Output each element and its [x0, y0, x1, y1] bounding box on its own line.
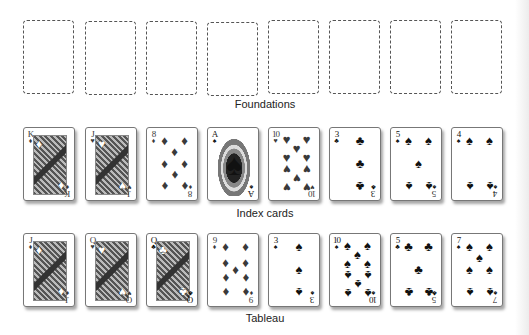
card-a-of-spades[interactable]: A♠♠A♠	[207, 127, 259, 201]
card-index-br: Q♥	[125, 289, 134, 304]
face-card-artwork: ♦♦	[33, 135, 67, 195]
clubs-icon: ♣	[402, 286, 416, 299]
card-rank: J	[125, 190, 134, 198]
card-rank: 9	[247, 296, 256, 304]
clubs-icon: ♣	[159, 243, 167, 257]
clubs-icon: ♣	[412, 263, 426, 276]
card-8-of-diamonds[interactable]: 8♦♦♦♦♦♦♦♦♦8♦	[146, 127, 198, 201]
card-index-br: 3♠	[308, 289, 317, 304]
diamonds-icon: ♦	[186, 183, 195, 190]
card-index-br: Q♣	[186, 289, 195, 304]
card-5-of-clubs[interactable]: 5♣♣♣♣♣♣5♣	[390, 233, 442, 307]
card-3-of-spades[interactable]: 3♠♠♠♠3♠	[268, 233, 320, 307]
card-index-br: 5♠	[430, 183, 439, 198]
card-index-br: 8♦	[186, 183, 195, 198]
spades-icon: ♠	[483, 134, 497, 147]
spades-icon: ♠	[341, 287, 355, 300]
spades-icon: ♠	[463, 263, 477, 276]
card-q-of-hearts[interactable]: Q♥♥♥Q♥	[85, 233, 137, 307]
hearts-icon: ♥	[125, 183, 134, 190]
card-index-br: 10♥	[308, 183, 317, 198]
clubs-icon: ♣	[402, 240, 416, 253]
card-j-of-hearts[interactable]: J♥♥♥J♥	[85, 127, 137, 201]
card-3-of-clubs[interactable]: 3♣♣♣♣3♣	[329, 127, 381, 201]
clubs-icon: ♣	[369, 183, 378, 190]
foundation-slot-7[interactable]	[390, 20, 441, 94]
card-4-of-spades[interactable]: 4♠♠♠♠♠4♠	[451, 127, 503, 201]
card-rank: 8	[186, 190, 195, 198]
spades-icon: ♠	[292, 240, 306, 253]
card-index-br: 9♦	[247, 289, 256, 304]
diamonds-icon: ♦	[219, 286, 233, 299]
card-q-of-clubs[interactable]: Q♣♣♣Q♣	[146, 233, 198, 307]
clubs-icon: ♣	[430, 289, 439, 296]
spades-icon: ♠	[463, 180, 477, 193]
clubs-icon: ♣	[353, 157, 367, 170]
card-index-br: A♠	[247, 183, 256, 198]
card-index-br: 10♠	[369, 289, 378, 304]
diamonds-icon: ♦	[219, 272, 233, 285]
card-rank: 5	[430, 296, 439, 304]
card-5-of-spades[interactable]: 5♠♠♠♠♠♠5♠	[390, 127, 442, 201]
card-index-tl: 3♠	[271, 236, 280, 251]
card-rank: Q	[186, 296, 195, 304]
spades-icon: ♠	[430, 183, 439, 190]
tableau-label: Tableau	[195, 312, 335, 324]
card-7-of-spades[interactable]: 7♠♠♠♠♠♠♠♠7♠	[451, 233, 503, 307]
card-10-of-spades[interactable]: 10♠♠♠♠♠♠♠♠♠♠♠10♠	[329, 233, 381, 307]
foundation-slot-2[interactable]	[85, 21, 136, 95]
spades-icon: ♠	[292, 263, 306, 276]
card-10-of-hearts[interactable]: 10♥♥♥♥♥♥♥♥♥♥♥10♥	[268, 127, 320, 201]
spades-icon: ♠	[483, 263, 497, 276]
hearts-icon: ♥	[98, 137, 105, 151]
face-card-artwork: ♥♥	[95, 241, 129, 301]
spades-icon: ♠	[491, 289, 500, 296]
index-cards-label: Index cards	[195, 207, 335, 219]
clubs-icon: ♣	[353, 134, 367, 147]
card-rank: 5	[430, 190, 439, 198]
spades-icon: ♠	[412, 157, 426, 170]
foundation-slot-6[interactable]	[329, 20, 380, 94]
diamonds-icon: ♦	[239, 272, 253, 285]
card-rank: 10	[308, 190, 317, 198]
diamonds-icon: ♦	[247, 289, 256, 296]
face-card-artwork: ♣♣	[156, 241, 190, 301]
foundation-slot-4[interactable]	[207, 22, 258, 96]
card-index-br: J♦	[63, 289, 72, 304]
foundation-slot-3[interactable]	[146, 21, 197, 95]
card-index-br: 7♠	[491, 289, 500, 304]
card-index-br: J♥	[125, 183, 134, 198]
card-rank: 3	[308, 296, 317, 304]
card-rank: A	[247, 190, 256, 198]
face-card-artwork: ♦♦	[33, 241, 67, 301]
spades-icon: ♠	[402, 134, 416, 147]
diamonds-icon: ♦	[158, 180, 172, 193]
card-j-of-diamonds[interactable]: J♦♦♦J♦	[23, 233, 75, 307]
hearts-icon: ♥	[280, 181, 294, 194]
spades-icon: ♠	[463, 286, 477, 299]
diamonds-icon: ♦	[239, 240, 253, 253]
card-rank: J	[63, 296, 72, 304]
card-rank: 7	[491, 296, 500, 304]
spades-icon: ♠	[402, 180, 416, 193]
spades-icon: ♠	[308, 289, 317, 296]
card-k-of-diamonds[interactable]: K♦♦♦K♦	[23, 127, 75, 201]
card-index-br: 5♣	[430, 289, 439, 304]
card-index-br: 3♣	[369, 183, 378, 198]
foundation-slot-1[interactable]	[23, 20, 74, 94]
spades-icon: ♠	[463, 134, 477, 147]
spades-icon: ♠	[292, 286, 306, 299]
spades-icon: ♠	[491, 183, 500, 190]
spades-icon: ♠	[422, 134, 436, 147]
diamonds-icon: ♦	[36, 137, 42, 151]
card-rank: 10	[369, 296, 378, 304]
card-rank: Q	[125, 296, 134, 304]
card-rank: K	[63, 190, 72, 198]
foundation-slot-8[interactable]	[451, 20, 502, 94]
clubs-icon: ♣	[332, 138, 341, 145]
spades-icon: ♠	[271, 244, 280, 251]
card-index-br: K♦	[63, 183, 72, 198]
card-9-of-diamonds[interactable]: 9♦♦♦♦♦♦♦♦♦♦9♦	[207, 233, 259, 307]
card-index-tl: 3♣	[332, 130, 341, 145]
foundation-slot-5[interactable]	[268, 20, 319, 94]
